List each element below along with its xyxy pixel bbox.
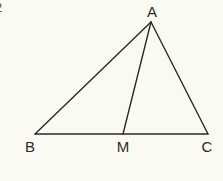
segment-AC: [151, 22, 208, 134]
label-B: B: [25, 138, 35, 155]
segment-AM: [123, 22, 151, 134]
label-M: M: [117, 138, 130, 155]
label-A: A: [147, 3, 157, 20]
segment-AB: [35, 22, 151, 134]
label-C: C: [202, 138, 213, 155]
corner-mark: 2: [0, 0, 2, 15]
segments: [35, 22, 208, 134]
triangle-diagram: 2 A B M C: [0, 0, 223, 181]
